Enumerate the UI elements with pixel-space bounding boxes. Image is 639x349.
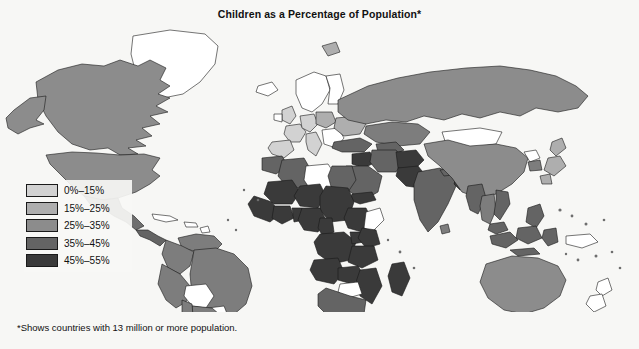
island-dot (558, 208, 561, 211)
footnote: *Shows countries with 13 million or more… (17, 322, 237, 333)
island-dot (603, 219, 606, 222)
island-dot (611, 251, 614, 254)
island-dot (235, 229, 237, 231)
region-sri-lanka (440, 224, 450, 234)
island-dot (257, 199, 260, 202)
legend-label-3: 35%–45% (64, 237, 110, 250)
legend-item: 25%–35% (26, 217, 130, 234)
island-dot (565, 253, 567, 255)
island-dot (413, 267, 416, 270)
island-dot (577, 259, 580, 262)
page-title: Children as a Percentage of Population* (0, 8, 639, 20)
region-japan-kyushu (540, 174, 552, 184)
island-dot (571, 215, 574, 218)
legend-label-0: 0%–15% (64, 184, 104, 197)
legend-label-4: 45%–55% (64, 254, 110, 267)
legend-swatch-4 (26, 254, 58, 267)
legend-swatch-2 (26, 219, 58, 232)
island-dot (585, 223, 588, 226)
island-dot (619, 267, 622, 270)
legend-swatch-3 (26, 237, 58, 250)
legend: 0%–15% 15%–25% 25%–35% 35%–45% 45%–55% (24, 180, 132, 272)
legend-swatch-1 (26, 202, 58, 215)
island-dot (387, 239, 389, 241)
region-south-korea (528, 160, 542, 171)
island-dot (399, 251, 402, 254)
island-dot (595, 255, 598, 258)
legend-item: 35%–45% (26, 235, 130, 252)
legend-label-2: 25%–35% (64, 219, 110, 232)
legend-item: 45%–55% (26, 252, 130, 269)
region-hispaniola (184, 222, 198, 227)
legend-swatch-0 (26, 184, 58, 197)
legend-item: 0%–15% (26, 182, 130, 199)
island-dot (227, 219, 229, 221)
island-dot (243, 189, 245, 191)
legend-label-1: 15%–25% (64, 202, 110, 215)
legend-item: 15%–25% (26, 200, 130, 217)
map-figure: Children as a Percentage of Population* (0, 0, 639, 349)
